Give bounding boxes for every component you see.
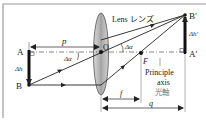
ray-focal-arrow [120,65,125,70]
label-delta-h: Δh [14,65,23,73]
label-lens: Lens レンズ [112,14,154,24]
label-delta-h-prime: Δh′ [188,30,199,38]
ray-upper-arrow [150,24,155,28]
label-a: A [17,47,24,57]
label-axis-line1: Principle [145,68,174,77]
point-a-prime [184,52,187,55]
lens-ray-diagram: A B Δh p Δα O Δα F Lens レンズ B′ Δh′ A′ Pr… [0,0,206,120]
point-f [139,51,143,55]
label-f-point: F [142,57,148,66]
label-o: O [103,43,109,52]
label-b-prime: B′ [189,11,197,21]
ray-chief-arrow [57,70,62,74]
label-q: q [149,99,153,108]
right-angle-mark-object [31,52,35,56]
label-delta-alpha-left: Δα [63,55,72,63]
label-axis-line2: axis [157,78,170,87]
angle-arc-right [121,44,123,52]
label-p: p [61,36,67,46]
label-b: B [16,81,22,91]
label-a-prime: A′ [189,49,197,59]
ray-parallel-arrow [61,83,66,87]
label-axis-line3: 光軸 [155,87,169,97]
angle-arc-left [78,52,79,60]
label-delta-alpha-right: Δα [124,43,133,51]
label-f-distance: f [120,89,124,98]
right-angle-mark-image [180,49,184,53]
